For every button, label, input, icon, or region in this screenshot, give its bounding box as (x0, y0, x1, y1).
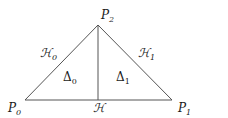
edge-label-h: ℋ (93, 101, 107, 115)
edge-label-h1: ℋ1 (138, 46, 155, 62)
edge-label-h0: ℋ0 (40, 46, 57, 62)
vertex-label-p0: P0 (7, 101, 21, 117)
vertex-label-p2: P2 (100, 8, 114, 24)
vertex-label-p1: P1 (177, 101, 191, 117)
edge-p2-p1 (98, 25, 172, 100)
triangle-diagram: P2 P0 P1 ℋ0 ℋ1 ℋ Δ0 Δ1 (0, 0, 228, 118)
triangle-edges (25, 25, 172, 100)
region-label-delta1: Δ1 (116, 70, 130, 86)
edge-p0-p2 (25, 25, 98, 100)
region-label-delta0: Δ0 (63, 70, 77, 86)
